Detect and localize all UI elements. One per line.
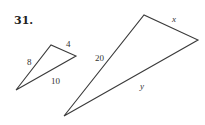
small-triangle: 8 4 10: [16, 39, 76, 90]
small-top-side-label: 4: [66, 39, 71, 49]
large-bottom-side-label: y: [139, 81, 144, 91]
small-left-side-label: 8: [27, 57, 32, 67]
large-left-side-label: 20: [95, 53, 105, 63]
large-top-side-label: x: [171, 14, 176, 24]
similar-triangles-diagram: 31. 8 4 10 20 x y: [0, 0, 205, 125]
problem-number: 31.: [14, 14, 33, 27]
small-bottom-side-label: 10: [51, 76, 61, 86]
large-triangle-shape: [64, 15, 198, 116]
large-triangle: 20 x y: [64, 14, 198, 116]
small-triangle-shape: [16, 45, 76, 90]
